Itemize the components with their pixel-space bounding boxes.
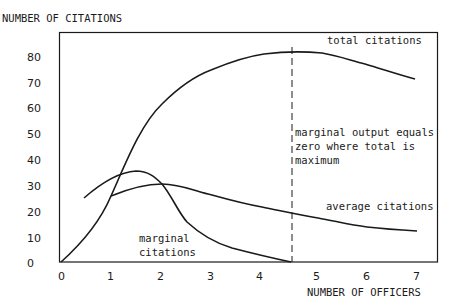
y-tick: 20 (27, 206, 41, 219)
y-axis-title: NUMBER OF CITATIONS (2, 12, 122, 24)
x-tick: 7 (413, 270, 420, 283)
annotation-line2: zero where total is (295, 140, 415, 152)
y-tick: 30 (27, 180, 41, 193)
x-tick-labels: 0 1 2 3 4 5 6 7 (58, 270, 420, 283)
x-tick: 1 (107, 270, 114, 283)
y-tick: 50 (27, 128, 41, 141)
total-citations-label: total citations (327, 34, 422, 46)
average-citations-label: average citations (326, 200, 433, 212)
y-tick: 60 (27, 102, 41, 115)
chart-canvas: NUMBER OF CITATIONS 0 10 20 30 40 50 60 … (0, 0, 461, 307)
x-tick: 6 (363, 270, 370, 283)
x-tick: 0 (58, 270, 65, 283)
x-tick: 4 (256, 270, 263, 283)
x-tick: 3 (207, 270, 214, 283)
annotation-line3: maximum (295, 154, 339, 166)
y-tick: 40 (27, 154, 41, 167)
x-axis-title: NUMBER OF OFFICERS (307, 286, 421, 298)
max-annotation: marginal output equals zero where total … (295, 126, 434, 166)
y-tick: 80 (27, 51, 41, 64)
y-tick: 10 (27, 232, 41, 245)
annotation-line1: marginal output equals (295, 126, 434, 138)
total-citations-line (61, 52, 415, 262)
marginal-citations-label-line1: marginal (139, 232, 190, 244)
y-tick-labels: 0 10 20 30 40 50 60 70 80 (27, 51, 41, 270)
marginal-citations-label-line2: citations (139, 246, 196, 258)
y-tick: 0 (27, 257, 34, 270)
y-tick: 70 (27, 77, 41, 90)
x-tick: 5 (313, 270, 320, 283)
x-tick: 2 (157, 270, 164, 283)
